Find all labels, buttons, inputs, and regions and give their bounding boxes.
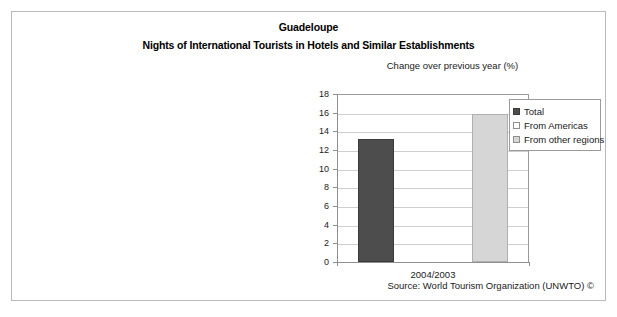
legend-item-from-americas[interactable]: From Americas bbox=[513, 118, 596, 132]
y-axis-tick-mark bbox=[333, 225, 337, 226]
y-axis-tick-mark bbox=[333, 187, 337, 188]
y-axis-tick-label: 8 bbox=[313, 183, 329, 192]
x-axis-category-label: 2004/2003 bbox=[337, 269, 529, 280]
y-axis-tick-label: 0 bbox=[313, 258, 329, 267]
page-title: Guadeloupe bbox=[12, 21, 605, 33]
x-axis-tick-mark bbox=[529, 262, 530, 266]
y-axis-tick-mark bbox=[333, 243, 337, 244]
y-axis-tick-label: 4 bbox=[313, 221, 329, 230]
y-axis-tick-label: 18 bbox=[313, 90, 329, 99]
bar-from-other-regions[interactable] bbox=[472, 114, 508, 262]
y-axis-tick-mark bbox=[333, 206, 337, 207]
y-axis-tick-mark bbox=[333, 131, 337, 132]
legend-item-total[interactable]: Total bbox=[513, 104, 596, 118]
chart-legend: Total From Americas From other regions bbox=[509, 99, 601, 151]
y-axis-tick-mark bbox=[333, 150, 337, 151]
figure-frame: Guadeloupe Nights of International Touri… bbox=[11, 11, 606, 301]
y-axis-tick-label: 2 bbox=[313, 239, 329, 248]
legend-item-from-other-regions[interactable]: From other regions bbox=[513, 132, 596, 146]
source-credit: Source: World Tourism Organization (UNWT… bbox=[387, 280, 594, 291]
legend-swatch-icon bbox=[513, 108, 520, 115]
chart-axis-title: Change over previous year (%) bbox=[350, 60, 555, 71]
legend-label: From Americas bbox=[524, 120, 588, 131]
y-axis-tick-label: 6 bbox=[313, 202, 329, 211]
legend-swatch-icon bbox=[513, 122, 520, 129]
y-axis-tick-mark bbox=[333, 113, 337, 114]
legend-swatch-icon bbox=[513, 136, 520, 143]
legend-label: From other regions bbox=[524, 134, 604, 145]
y-axis-tick-label: 12 bbox=[313, 146, 329, 155]
bar-chart: Change over previous year (%) 1816141210… bbox=[302, 60, 602, 275]
bar-total[interactable] bbox=[358, 139, 394, 262]
y-axis-tick-label: 16 bbox=[313, 109, 329, 118]
x-axis-tick-mark bbox=[337, 262, 338, 266]
page-subtitle: Nights of International Tourists in Hote… bbox=[12, 39, 605, 51]
x-axis-line bbox=[337, 262, 529, 263]
legend-label: Total bbox=[524, 106, 544, 117]
y-axis-line bbox=[337, 94, 338, 263]
y-axis-tick-label: 14 bbox=[313, 127, 329, 136]
y-axis-tick-label: 10 bbox=[313, 165, 329, 174]
y-axis-tick-mark bbox=[333, 169, 337, 170]
y-axis-tick-mark bbox=[333, 94, 337, 95]
